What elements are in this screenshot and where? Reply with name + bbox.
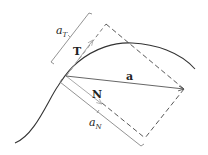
component-rectangle xyxy=(66,24,184,138)
tangential-component-label: aT xyxy=(56,24,69,39)
normal-component-label: aN xyxy=(89,116,103,131)
normal-vector-label: N xyxy=(92,88,102,101)
normal-component-subscript: N xyxy=(95,123,103,131)
tangent-vector-label: T xyxy=(73,45,82,58)
tangential-component-subscript: T xyxy=(63,31,69,39)
tangent-bracket-tick xyxy=(68,35,70,37)
trajectory-curve xyxy=(15,43,195,143)
acceleration-components-diagram: T N a aT aN xyxy=(0,0,208,155)
acceleration-vector-label: a xyxy=(126,70,133,83)
acceleration-vector-arrow xyxy=(66,76,184,89)
rect-top-side xyxy=(106,24,184,89)
rect-right-side xyxy=(145,89,184,138)
